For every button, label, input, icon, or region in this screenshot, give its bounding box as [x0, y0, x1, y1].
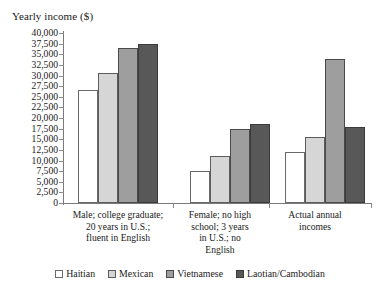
y-axis-tick-mark — [59, 118, 64, 119]
y-axis-tick-mark — [59, 129, 64, 130]
bar — [250, 124, 270, 203]
y-axis-tick-mark — [59, 203, 64, 204]
legend-swatch-icon — [55, 270, 63, 278]
y-axis-tick-mark — [59, 33, 64, 34]
y-axis-tick-mark — [59, 161, 64, 162]
bar — [230, 129, 250, 203]
y-axis-tick-label: 15,000 — [32, 134, 58, 144]
legend-item[interactable]: Haitian — [55, 268, 95, 279]
legend-label: Haitian — [66, 268, 95, 279]
chart-container: Yearly income ($) 40,00037,50035,00032,5… — [0, 0, 380, 294]
y-axis-tick-label: 25,000 — [32, 92, 58, 102]
x-axis-group-tick — [371, 203, 372, 208]
legend-item[interactable]: Vietnamese — [166, 268, 223, 279]
y-axis-tick-mark — [59, 86, 64, 87]
bar — [118, 48, 138, 203]
y-axis-tick-mark — [59, 192, 64, 193]
y-axis-tick-label: 35,000 — [32, 49, 58, 59]
y-axis-tick-label: 32,500 — [32, 60, 58, 70]
y-axis-tick-mark — [59, 171, 64, 172]
y-axis-tick-label: 40,000 — [32, 28, 58, 38]
bar — [285, 152, 305, 203]
y-axis-tick-label: 17,500 — [32, 124, 58, 134]
chart-legend: HaitianMexicanVietnameseLaotian/Cambodia… — [0, 268, 380, 279]
legend-item[interactable]: Mexican — [108, 268, 153, 279]
x-axis-group-tick — [173, 203, 174, 208]
y-axis-tick-mark — [59, 150, 64, 151]
bar — [190, 171, 210, 203]
y-axis-tick-label: 22,500 — [32, 103, 58, 113]
x-axis-category-label: Actual annual incomes — [255, 209, 375, 232]
legend-swatch-icon — [236, 270, 244, 278]
legend-swatch-icon — [108, 270, 116, 278]
legend-label: Laotian/Cambodian — [247, 268, 325, 279]
bar — [305, 137, 325, 203]
y-axis-tick-label: 10,000 — [32, 156, 58, 166]
legend-label: Mexican — [119, 268, 153, 279]
y-axis-tick-label: 7,500 — [36, 166, 58, 176]
y-axis-tick-mark — [59, 65, 64, 66]
y-axis-tick-mark — [59, 76, 64, 77]
bar — [345, 127, 365, 204]
y-axis-tick-label: 20,000 — [32, 113, 58, 123]
bar — [138, 44, 158, 203]
y-axis-tick-label: 2,500 — [36, 188, 58, 198]
bar — [210, 156, 230, 203]
y-axis-tick-label: 27,500 — [32, 81, 58, 91]
y-axis-tick-labels: 40,00037,50035,00032,50030,00027,50025,0… — [0, 0, 58, 294]
y-axis-tick-label: 30,000 — [32, 71, 58, 81]
plot-area — [63, 33, 371, 203]
bar — [325, 59, 345, 204]
y-axis-tick-label: 37,500 — [32, 39, 58, 49]
y-axis-tick-mark — [59, 54, 64, 55]
bar — [98, 73, 118, 203]
legend-item[interactable]: Laotian/Cambodian — [236, 268, 325, 279]
y-axis-tick-mark — [59, 182, 64, 183]
legend-label: Vietnamese — [177, 268, 223, 279]
y-axis-tick-mark — [59, 139, 64, 140]
x-axis-group-tick — [269, 203, 270, 208]
y-axis-tick-label: 0 — [53, 198, 58, 208]
y-axis-tick-mark — [59, 107, 64, 108]
y-axis-tick-label: 12,500 — [32, 145, 58, 155]
bar — [78, 90, 98, 203]
y-axis-tick-label: 5,000 — [36, 177, 58, 187]
legend-swatch-icon — [166, 270, 174, 278]
y-axis-tick-mark — [59, 97, 64, 98]
x-axis-line — [63, 203, 372, 204]
y-axis-tick-mark — [59, 44, 64, 45]
